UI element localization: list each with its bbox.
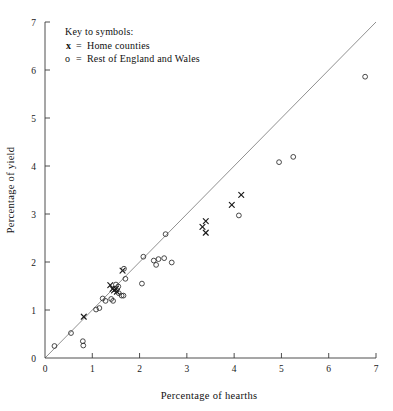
data-point-circle xyxy=(277,160,282,165)
data-point-circle xyxy=(162,256,167,261)
y-tick-label: 0 xyxy=(31,354,36,364)
scatter-plot-figure: 01234567 01234567 Percentage of hearths … xyxy=(0,0,393,411)
y-tick-labels: 01234567 xyxy=(31,18,36,364)
data-point-circle xyxy=(52,344,57,349)
data-point-circle xyxy=(291,154,296,159)
y-tick-label: 4 xyxy=(31,162,36,172)
x-tick-label: 3 xyxy=(184,364,189,374)
y-tick-label: 1 xyxy=(31,306,36,316)
data-point-cross xyxy=(239,192,244,197)
x-tick-label: 1 xyxy=(90,364,95,374)
y-tick-label: 2 xyxy=(31,258,36,268)
y-tick-label: 7 xyxy=(31,18,36,28)
y-tick-label: 3 xyxy=(31,210,36,220)
legend-label-home-counties: Home counties xyxy=(87,40,150,51)
legend-equals-home-counties: = xyxy=(76,40,82,51)
x-tick-label: 5 xyxy=(279,364,284,374)
data-point-circle xyxy=(140,281,145,286)
data-point-cross xyxy=(203,219,208,224)
data-point-circle xyxy=(169,260,174,265)
legend-symbol-home-counties: x xyxy=(66,40,71,51)
plot-canvas: 01234567 01234567 Percentage of hearths … xyxy=(0,0,393,411)
legend-heading: Key to symbols: xyxy=(65,26,134,37)
data-point-circle xyxy=(154,262,159,267)
x-axis-title: Percentage of hearths xyxy=(161,390,258,401)
legend-equals-rest-of-england: = xyxy=(76,53,82,64)
data-point-cross xyxy=(229,202,234,207)
data-point-cross xyxy=(200,224,205,229)
y-axis-title: Percentage of yield xyxy=(5,146,16,233)
y-tick-label: 5 xyxy=(31,114,36,124)
x-tick-label: 7 xyxy=(374,364,379,374)
data-point-circle xyxy=(236,213,241,218)
data-point-circle xyxy=(123,276,128,281)
x-tick-labels: 01234567 xyxy=(43,364,379,374)
x-tick-label: 2 xyxy=(137,364,142,374)
x-tick-label: 6 xyxy=(326,364,331,374)
data-point-cross xyxy=(203,230,208,235)
y-tick-label: 6 xyxy=(31,66,36,76)
x-tick-label: 4 xyxy=(232,364,237,374)
data-point-circle xyxy=(156,257,161,262)
data-points-group xyxy=(52,74,367,348)
legend-label-rest-of-england: Rest of England and Wales xyxy=(87,53,200,64)
x-tick-label: 0 xyxy=(43,364,48,374)
legend-symbol-rest-of-england: o xyxy=(65,53,70,64)
data-point-circle xyxy=(363,74,368,79)
